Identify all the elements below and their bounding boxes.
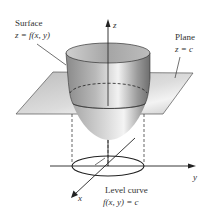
- diagram-svg: Surface z = f(x, y) Plane z = c Level cu…: [0, 0, 213, 222]
- plane-label-title: Plane: [175, 32, 195, 42]
- level-curve-leader-line: [95, 158, 105, 165]
- surface-leader-line: [37, 44, 66, 65]
- level-curve-diagram: Surface z = f(x, y) Plane z = c Level cu…: [0, 0, 213, 222]
- surface-label-equation: z = f(x, y): [14, 30, 50, 40]
- x-axis-label: x: [77, 193, 82, 203]
- plane-label-equation: z = c: [174, 44, 193, 54]
- y-axis-label: y: [192, 172, 197, 182]
- level-curve-label-equation: f(x, y) = c: [103, 197, 139, 207]
- level-curve-label-title: Level curve: [105, 185, 148, 195]
- surface-label-title: Surface: [15, 18, 42, 28]
- z-axis-label: z: [112, 20, 117, 30]
